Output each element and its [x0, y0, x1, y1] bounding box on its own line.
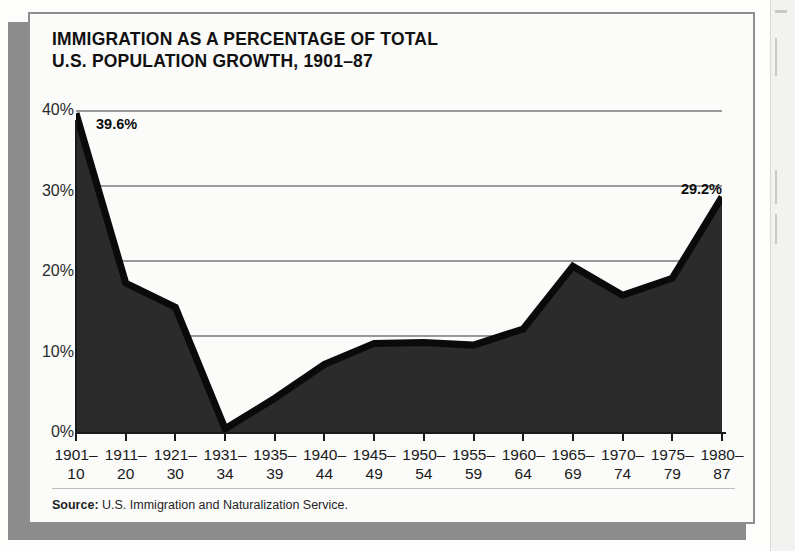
y-tick-label-40: 40%: [42, 101, 74, 119]
x-tick-label-12: 1975–79: [651, 446, 694, 484]
x-tick-label-8: 1955–59: [452, 446, 495, 484]
y-tick-label-20: 20%: [42, 262, 74, 280]
x-tick-label-3: 1931–34: [204, 446, 247, 484]
x-label-top: 1911–: [105, 446, 147, 465]
x-label-bottom: 59: [452, 465, 495, 484]
x-tick-label-2: 1921–30: [154, 446, 197, 484]
x-label-bottom: 79: [651, 465, 694, 484]
x-tick-7: [423, 432, 425, 441]
y-tick-label-0: 0%: [51, 423, 74, 441]
immigration-area-series: [76, 110, 722, 432]
x-tick-label-0: 1901–10: [54, 446, 97, 484]
x-tick-9: [522, 432, 524, 441]
x-tick-label-9: 1960–64: [502, 446, 545, 484]
x-label-top: 1960–: [502, 446, 545, 465]
y-tick-label-30: 30%: [42, 182, 74, 200]
x-label-bottom: 34: [204, 465, 247, 484]
x-tick-0: [75, 432, 77, 441]
x-tick-5: [323, 432, 325, 441]
x-tick-3: [224, 432, 226, 441]
x-tick-label-4: 1935–39: [253, 446, 296, 484]
y-tick-label-10: 10%: [42, 343, 74, 361]
x-label-bottom: 49: [353, 465, 396, 484]
x-tick-1: [125, 432, 127, 441]
x-tick-12: [671, 432, 673, 441]
x-label-top: 1945–: [353, 446, 396, 465]
x-label-bottom: 10: [54, 465, 97, 484]
x-label-top: 1980–: [700, 446, 743, 465]
x-label-top: 1940–: [303, 446, 346, 465]
source-divider: [52, 488, 735, 489]
x-tick-6: [373, 432, 375, 441]
source-label: Source:: [52, 498, 99, 512]
x-tick-10: [572, 432, 574, 441]
source-note: Source: U.S. Immigration and Naturalizat…: [52, 498, 348, 512]
x-label-top: 1955–: [452, 446, 495, 465]
area-fill: [76, 113, 722, 432]
chart-panel: IMMIGRATION AS A PERCENTAGE OF TOTAL U.S…: [28, 12, 755, 524]
title-line-2: U.S. POPULATION GROWTH, 1901–87: [52, 50, 612, 72]
x-label-top: 1970–: [601, 446, 644, 465]
source-text: U.S. Immigration and Naturalization Serv…: [99, 498, 348, 512]
y-axis: 0%10%20%30%40%: [30, 110, 74, 432]
x-label-bottom: 69: [551, 465, 594, 484]
x-label-bottom: 54: [402, 465, 445, 484]
callout-first: 39.6%: [96, 116, 137, 132]
x-label-bottom: 64: [502, 465, 545, 484]
x-tick-8: [473, 432, 475, 441]
x-tick-label-1: 1911–20: [105, 446, 147, 484]
x-label-top: 1950–: [402, 446, 445, 465]
x-tick-11: [622, 432, 624, 441]
x-label-top: 1901–: [54, 446, 97, 465]
x-label-bottom: 87: [700, 465, 743, 484]
x-label-bottom: 74: [601, 465, 644, 484]
x-tick-label-10: 1965–69: [551, 446, 594, 484]
x-label-top: 1965–: [551, 446, 594, 465]
title-line-1: IMMIGRATION AS A PERCENTAGE OF TOTAL: [52, 28, 612, 50]
x-tick-label-11: 1970–74: [601, 446, 644, 484]
x-tick-13: [721, 432, 723, 441]
x-tick-label-6: 1945–49: [353, 446, 396, 484]
x-tick-4: [274, 432, 276, 441]
x-label-top: 1931–: [204, 446, 247, 465]
x-label-top: 1921–: [154, 446, 197, 465]
x-label-bottom: 44: [303, 465, 346, 484]
x-tick-label-7: 1950–54: [402, 446, 445, 484]
x-label-bottom: 30: [154, 465, 197, 484]
x-tick-label-13: 1980–87: [700, 446, 743, 484]
x-label-top: 1975–: [651, 446, 694, 465]
x-tick-2: [174, 432, 176, 441]
x-label-bottom: 39: [253, 465, 296, 484]
y-axis-line: [75, 120, 77, 434]
x-label-top: 1935–: [253, 446, 296, 465]
plot-area: [76, 110, 722, 432]
callout-last: 29.2%: [681, 181, 722, 197]
page-title: IMMIGRATION AS A PERCENTAGE OF TOTAL U.S…: [52, 28, 612, 73]
x-label-bottom: 20: [105, 465, 147, 484]
scan-edge-artifact: [770, 0, 795, 551]
x-tick-label-5: 1940–44: [303, 446, 346, 484]
